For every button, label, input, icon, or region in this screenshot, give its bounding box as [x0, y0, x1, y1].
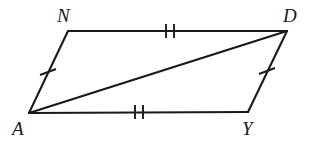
vertex-label-a: A [12, 119, 24, 138]
vertex-label-d: D [283, 6, 297, 25]
geometry-figure: N D Y A [0, 0, 313, 146]
figure-canvas [0, 0, 313, 146]
side-YA [29, 112, 248, 113]
vertex-label-y: Y [242, 119, 253, 138]
diagonal-AD [29, 31, 287, 113]
vertex-label-n: N [57, 6, 70, 25]
